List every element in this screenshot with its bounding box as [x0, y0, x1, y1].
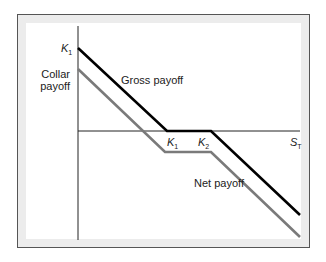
k1-label: K1 [167, 136, 178, 153]
gross-payoff-label: Gross payoff [121, 74, 183, 86]
y-axis-k1-label: K1 [61, 42, 72, 59]
net-payoff-line [78, 69, 300, 237]
k2-label: K2 [198, 136, 209, 153]
payoff-diagram [0, 0, 326, 262]
collar-payoff-label: Collarpayoff [32, 68, 70, 92]
net-payoff-label: Net payoff [194, 177, 244, 189]
x-axis-label: ST [290, 136, 302, 153]
